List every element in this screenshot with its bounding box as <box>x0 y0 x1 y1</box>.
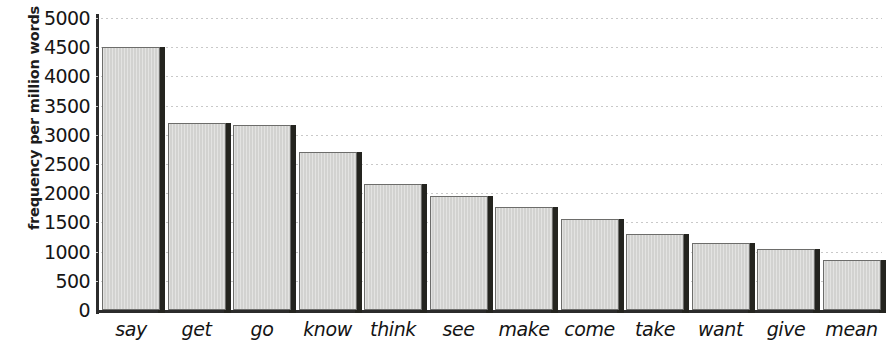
y-tick-2000: 2000 <box>28 184 90 203</box>
bar-see <box>430 196 488 310</box>
y-tick-4500: 4500 <box>28 38 90 57</box>
y-tick-2500: 2500 <box>28 155 90 174</box>
bar-want <box>692 243 750 310</box>
gridline-4500 <box>96 47 882 48</box>
bar-body-take <box>626 234 684 311</box>
bar-body-know <box>299 152 357 310</box>
x-tick-think: think <box>358 318 428 340</box>
bar-make <box>495 207 553 310</box>
y-tick-500: 500 <box>28 272 90 291</box>
y-tick-4000: 4000 <box>28 67 90 86</box>
gridline-5000 <box>96 18 882 19</box>
x-tick-say: say <box>96 318 166 340</box>
bar-body-want <box>692 243 750 310</box>
bar-mean <box>823 260 881 310</box>
bar-say <box>102 47 160 310</box>
y-tick-5000: 5000 <box>28 9 90 28</box>
gridline-4000 <box>96 76 882 77</box>
x-tick-make: make <box>489 318 559 340</box>
bar-body-see <box>430 196 488 310</box>
x-tick-mean: mean <box>817 318 887 340</box>
bar-take <box>626 234 684 311</box>
bar-body-make <box>495 207 553 310</box>
x-axis-tick-labels: saygetgoknowthinkseemakecometakewantgive… <box>96 318 882 352</box>
bar-come <box>561 219 619 310</box>
bar-know <box>299 152 357 310</box>
x-tick-get: get <box>162 318 232 340</box>
bar-body-say <box>102 47 160 310</box>
bar-body-come <box>561 219 619 310</box>
bar-chart: frequency per million words 500045004000… <box>0 0 890 354</box>
bar-body-think <box>364 184 422 310</box>
x-tick-come: come <box>555 318 625 340</box>
x-tick-see: see <box>424 318 494 340</box>
y-tick-1500: 1500 <box>28 213 90 232</box>
bar-body-go <box>233 125 291 310</box>
bar-body-mean <box>823 260 881 310</box>
x-tick-know: know <box>293 318 363 340</box>
bar-go <box>233 125 291 310</box>
y-tick-0: 0 <box>28 301 90 320</box>
x-tick-give: give <box>751 318 821 340</box>
y-tick-3500: 3500 <box>28 97 90 116</box>
y-axis-tick-labels: 5000450040003500300025002000150010005000 <box>28 0 90 354</box>
bar-give <box>757 249 815 310</box>
bar-body-get <box>168 123 226 310</box>
gridline-3500 <box>96 106 882 107</box>
bar-body-give <box>757 249 815 310</box>
y-tick-3000: 3000 <box>28 126 90 145</box>
bar-get <box>168 123 226 310</box>
bar-think <box>364 184 422 310</box>
x-tick-want: want <box>686 318 756 340</box>
plot-area <box>96 18 882 310</box>
x-tick-go: go <box>227 318 297 340</box>
y-tick-1000: 1000 <box>28 243 90 262</box>
x-tick-take: take <box>620 318 690 340</box>
